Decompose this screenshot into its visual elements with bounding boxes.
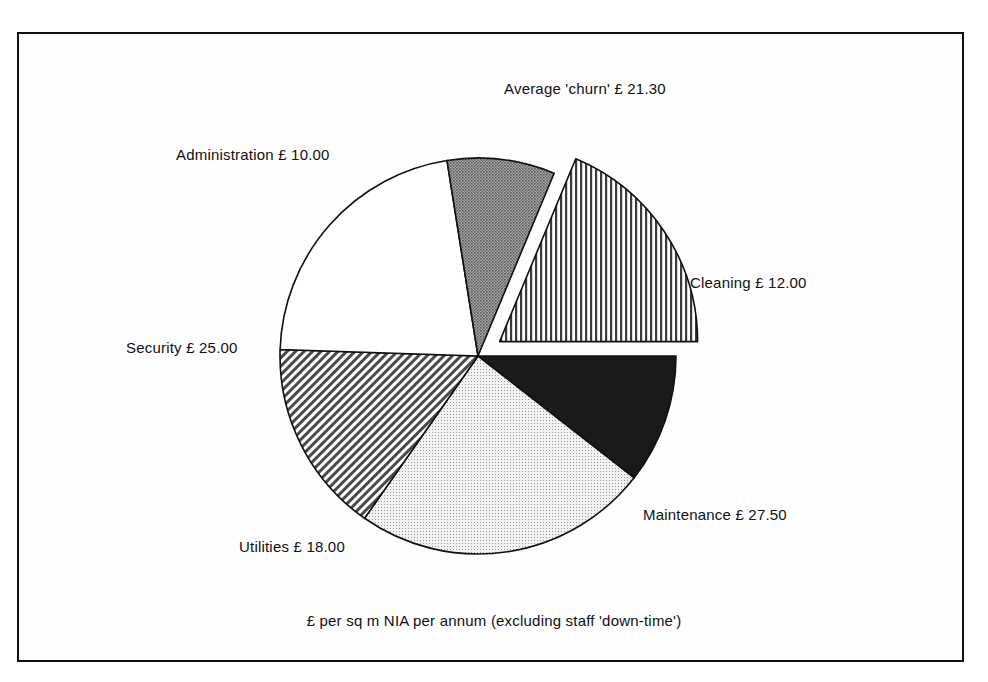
slice-label-churn: Average 'churn' £ 21.30	[504, 80, 666, 97]
pie-slices	[280, 158, 698, 554]
slice-label-utilities: Utilities £ 18.00	[239, 538, 345, 555]
chart-caption: £ per sq m NIA per annum (excluding staf…	[0, 612, 988, 629]
pie-slice-security	[280, 160, 478, 356]
chart-figure: Average 'churn' £ 21.30 Administration £…	[0, 0, 988, 682]
slice-label-cleaning: Cleaning £ 12.00	[690, 274, 807, 291]
slice-label-security: Security £ 25.00	[126, 339, 238, 356]
slice-label-administration: Administration £ 10.00	[176, 146, 330, 163]
slice-label-maintenance: Maintenance £ 27.50	[643, 506, 787, 523]
